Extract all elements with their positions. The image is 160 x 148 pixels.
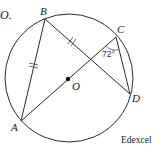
center-point-o — [66, 77, 70, 81]
point-label-b: B — [40, 5, 47, 17]
point-label-a: A — [10, 121, 18, 133]
chord-ab — [21, 19, 45, 121]
header-text: O. — [0, 8, 12, 22]
point-label-c: C — [117, 23, 125, 35]
point-label-d: D — [131, 92, 140, 104]
circle-theorem-diagram: O. B C D A O 72° Edexcel — [0, 0, 160, 148]
source-label: Edexcel — [121, 135, 152, 145]
angle-label-72: 72° — [102, 49, 115, 59]
equal-tick-marks-ab — [29, 63, 38, 68]
point-label-o: O — [72, 80, 80, 92]
chord-cd — [116, 37, 130, 94]
